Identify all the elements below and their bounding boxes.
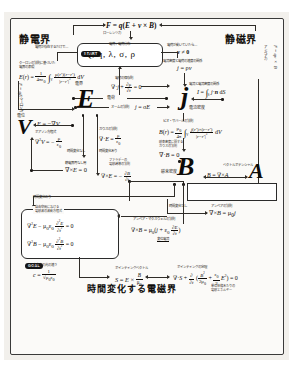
arrow-current-integral-to-j	[191, 97, 194, 101]
potential-glyph: V	[17, 117, 32, 137]
connector-faraday-to-b	[129, 181, 183, 182]
connector-poynting-theorem	[147, 277, 169, 278]
connector-e-branch-a	[83, 115, 84, 155]
arrow-ohm-to-j	[167, 105, 170, 109]
arrow-to-poynting	[107, 275, 110, 279]
coulomb-law-caption: クーロンの法則に基づいた 電界の表現	[19, 61, 55, 70]
connector-goal-to-poynting	[79, 277, 109, 278]
charge-conservation-formula: ∇·j + ∂ρ∂t = 0	[111, 82, 142, 93]
wave-equation-box	[21, 209, 119, 259]
arrow-branch-a-down	[82, 155, 86, 158]
ohm-law-formula: j = σE	[135, 104, 150, 110]
connector-v-to-curl-e	[31, 139, 32, 170]
ampere-force-label: アンペア力	[263, 45, 267, 60]
junction-dot-e-gradient	[71, 124, 74, 127]
wave-equation-e: ∇2E − μ0ε0 ∂2E∂t2 = 0	[27, 220, 74, 233]
time-variation-label: 時間変化あり	[99, 149, 117, 153]
displacement-current-label: 変位電流	[157, 237, 169, 242]
arrow-branch-b-down	[96, 173, 100, 176]
potential-label: 電位	[17, 113, 25, 118]
connector-b-a	[205, 177, 247, 178]
section-title-electrostatics: 静電界	[19, 35, 51, 46]
ampere-maxwell-formula: ∇×B = μ0(j + ε0 ∂E∂t)	[131, 225, 180, 236]
junction-dot-branch-a	[82, 114, 85, 117]
junction-dot-branch-b	[96, 114, 99, 117]
velocity-nonzero: v ≠ 0	[177, 49, 189, 55]
current-density-glyph: j	[181, 85, 188, 108]
arrow-poynting-left	[145, 275, 148, 279]
arrow-charge-conservation	[167, 84, 170, 88]
faraday-caption: ファラデーの 電磁誘導の法則	[109, 159, 130, 167]
connector-charge-conservation	[141, 86, 169, 87]
connector-b-branch-a-horiz	[33, 196, 175, 197]
connector-ampere-maxwell-vert	[183, 212, 184, 224]
wave-equation-caption: 自由空間における 電磁波の波動方程式	[33, 206, 64, 214]
biot-savart-caption: ビオ・サバールの法則	[163, 119, 193, 123]
connector-coulomb-force-horiz	[18, 109, 74, 110]
wave-equation-b: ∇2B − μ0ε0 ∂2B∂t2 = 0	[27, 238, 74, 251]
connector-b-branch-a	[174, 184, 175, 196]
energy-density-note: 単位体積あたりの 電磁エネルギー	[211, 285, 235, 293]
static-charge-note: 電荷が存在するだけで…	[35, 45, 68, 49]
junction-dot-b-top	[178, 160, 181, 163]
junction-dot-e-charge	[72, 97, 75, 100]
section-title-magnetostatics: 静磁界	[225, 35, 257, 46]
junction-dot-charge-j	[165, 97, 168, 100]
biot-savart-formula: B(r) = μ04π ∫V j(r′)×(r−r′)|r−r′|3 dV	[159, 126, 222, 139]
current-integral-caption: 電流と電流密度の関係	[189, 82, 219, 86]
connector-coulomb-force-vert	[18, 81, 19, 109]
connector-right-to-lorentz	[161, 25, 256, 26]
moving-charge-note: 電荷が動いていたら…	[167, 43, 197, 47]
ampere-law-caption: アンペアの法則	[211, 204, 232, 208]
connector-j-to-biot	[183, 113, 184, 121]
connector-source-right-down	[177, 52, 178, 58]
connector-source-right	[161, 52, 177, 53]
poynting-theorem-caption: ポインティングの定理	[177, 265, 207, 269]
curl-e-zero-formula: ∇×E = 0	[65, 167, 87, 174]
connector-faraday-down	[129, 181, 130, 201]
diagram-frame: F = q(E + v × B) ローレンツ力 静電界 静磁界 START 電荷…	[10, 18, 284, 355]
connector-source-left	[57, 52, 77, 53]
arrow-up-to-potential	[30, 137, 34, 140]
faraday-formula: ∇×E = − ∂B∂t	[101, 171, 131, 182]
junction-dot-current-integral	[221, 98, 224, 101]
connector-source-left-down	[57, 52, 58, 61]
electric-field-glyph: E	[77, 87, 94, 110]
magnetic-field-glyph: B	[177, 155, 194, 178]
diagram-title: 時間変化する電磁界	[87, 285, 177, 294]
arrow-e-gradient-left	[33, 123, 36, 127]
diagram-page: F = q(E + v × B) ローレンツ力 静電界 静磁界 START 電荷…	[0, 0, 293, 385]
current-density-relation-caption: 電流密度と電荷の速度の関係	[163, 59, 202, 63]
connector-ampere-law-vert	[167, 199, 168, 213]
gauss-law-formula: ∇·E = ρε0	[99, 133, 121, 146]
arrow-lorentz-down	[129, 37, 133, 40]
lorentz-force-label: ローレンツ力	[103, 31, 121, 35]
connector-left-riser	[73, 25, 74, 35]
connector-e-branch-b	[97, 115, 98, 173]
charge-source-symbols: Q, q, λ, σ, ρ	[85, 50, 136, 59]
magnetic-field-label: 磁束密度	[161, 169, 177, 174]
poisson-caption: ポアソン方程式	[35, 130, 56, 134]
ohm-law-caption: オームの法則	[111, 105, 129, 109]
electric-field-label: 電界	[75, 81, 83, 86]
connector-charge-to-j	[127, 98, 167, 99]
poisson-formula: ∇2V = − ρε0	[35, 136, 62, 149]
vector-potential-glyph: A	[249, 161, 264, 181]
lorentz-force-formula: F = q(E + v × B)	[106, 22, 157, 30]
gauss-magnetic-caption: 磁束密度に関する ガウスの法則	[159, 141, 183, 149]
connector-ampere-law	[167, 213, 207, 214]
ampere-law-formula: ∇×B = μ0j	[209, 210, 236, 219]
connector-right-riser	[255, 25, 256, 31]
light-speed-formula: c = 1√μ0ε0	[33, 269, 56, 282]
current-density-relation-formula: j = ρv	[177, 65, 192, 72]
current-density-label: 電流密度	[189, 105, 205, 110]
charge-source-caption: 電荷 / 電荷分布	[109, 42, 130, 46]
charge-conservation-caption: 電荷の保存則	[115, 76, 133, 80]
poynting-vector-caption: ポインティングベクトル	[115, 266, 148, 270]
connector-current-integral	[193, 99, 223, 100]
arrow-into-lorentz-left	[103, 23, 106, 27]
arrow-b-a-left	[203, 175, 206, 179]
no-time-variation-label-b: 時間変化なし	[169, 204, 187, 208]
connector-e-gradient	[35, 125, 73, 126]
arrow-into-wave-box	[117, 214, 120, 218]
